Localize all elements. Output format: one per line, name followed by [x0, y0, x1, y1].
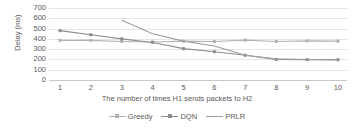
data-point-dqn — [59, 29, 62, 32]
y-axis-tick-labels: 0100200300400500600700 — [22, 8, 46, 80]
chart-legend: GreedyDQNPRLR — [0, 112, 354, 121]
x-tick-label: 2 — [89, 83, 93, 92]
series-lines — [49, 8, 347, 80]
x-axis-title: The number of times H1 sends packets to … — [0, 94, 354, 103]
data-point-dqn — [89, 33, 92, 36]
x-tick-label: 4 — [151, 83, 155, 92]
x-tick-label: 7 — [243, 83, 247, 92]
y-tick-label: 300 — [33, 45, 46, 53]
data-point-dqn — [120, 37, 123, 40]
legend-swatch-icon — [161, 113, 178, 121]
x-tick-label: 10 — [334, 83, 342, 92]
data-point-greedy — [59, 39, 62, 42]
x-tick-label: 9 — [305, 83, 309, 92]
x-tick-label: 3 — [120, 83, 124, 92]
data-point-dqn — [213, 50, 216, 53]
legend-item-greedy[interactable]: Greedy — [109, 112, 153, 121]
y-tick-label: 100 — [33, 66, 46, 74]
y-tick-label: 700 — [33, 4, 46, 12]
x-tick-label: 8 — [274, 83, 278, 92]
x-tick-label: 6 — [212, 83, 216, 92]
y-tick-label: 400 — [33, 35, 46, 43]
x-tick-label: 5 — [181, 83, 185, 92]
data-point-dqn — [151, 41, 154, 44]
legend-label: DQN — [180, 112, 197, 121]
legend-label: PRLR — [225, 112, 245, 121]
legend-label: Greedy — [128, 112, 153, 121]
data-point-greedy — [337, 40, 340, 43]
x-axis-baseline — [49, 80, 347, 81]
legend-item-dqn[interactable]: DQN — [161, 112, 197, 121]
series-line-greedy — [60, 40, 338, 42]
delay-line-chart: Delay (ms) 0100200300400500600700 123456… — [0, 0, 354, 135]
data-point-greedy — [275, 40, 278, 43]
data-point-greedy — [213, 40, 216, 43]
y-tick-label: 500 — [33, 25, 46, 33]
data-point-greedy — [244, 39, 247, 42]
data-point-dqn — [182, 47, 185, 50]
x-axis-tick-labels: 12345678910 — [49, 83, 347, 94]
data-point-greedy — [306, 39, 309, 42]
legend-swatch-icon — [206, 113, 223, 121]
x-tick-label: 1 — [58, 83, 62, 92]
y-axis-title: Delay (ms) — [13, 0, 22, 68]
legend-swatch-icon — [109, 113, 126, 121]
y-tick-label: 0 — [42, 76, 46, 84]
plot-area — [49, 8, 347, 80]
data-point-greedy — [120, 40, 123, 43]
y-tick-label: 600 — [33, 14, 46, 22]
legend-item-prlr[interactable]: PRLR — [206, 112, 245, 121]
series-line-dqn — [60, 31, 338, 60]
data-point-greedy — [89, 39, 92, 42]
y-tick-label: 200 — [33, 55, 46, 63]
